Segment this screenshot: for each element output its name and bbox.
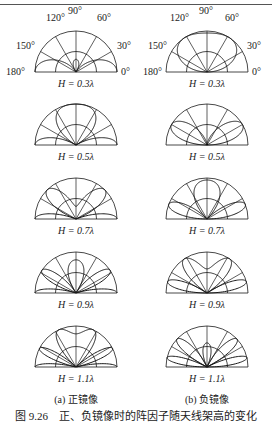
angle-label-60-left: 60° — [97, 12, 111, 23]
height-label-a-2: H = 0.7λ — [16, 225, 136, 236]
angle-label-120-right: 120° — [170, 12, 189, 23]
angle-label-0-right: 0° — [252, 66, 261, 77]
height-label-a-3: H = 0.9λ — [16, 299, 136, 310]
height-label-b-3: H = 0.9λ — [147, 299, 267, 310]
angle-label-180-right: 180° — [143, 66, 162, 77]
polar-plot-a-4 — [35, 326, 117, 367]
height-label-a-4: H = 1.1λ — [16, 373, 136, 384]
height-label-a-1: H = 0.5λ — [16, 151, 136, 162]
polar-plot-a-3 — [35, 252, 117, 293]
polar-plot-a-1 — [35, 104, 117, 145]
polar-plot-b-4 — [166, 326, 248, 367]
height-label-b-2: H = 0.7λ — [147, 225, 267, 236]
height-label-a-0: H = 0.3λ — [16, 78, 136, 89]
polar-plot-a-2 — [35, 178, 117, 219]
subtitle-positive-image: (a) 正镜像 — [16, 391, 136, 406]
height-label-b-0: H = 0.3λ — [147, 78, 267, 89]
angle-label-0-left: 0° — [121, 66, 130, 77]
angle-label-180-left: 180° — [6, 66, 25, 77]
angle-label-120-left: 120° — [46, 12, 65, 23]
polar-plot-b-1 — [166, 104, 248, 145]
angle-label-60-right: 60° — [225, 12, 239, 23]
angle-label-150-right: 150° — [148, 40, 167, 51]
polar-plot-b-0 — [166, 31, 248, 72]
angle-label-90-right: 90° — [199, 5, 213, 16]
height-label-b-1: H = 0.5λ — [147, 151, 267, 162]
angle-label-150-left: 150° — [16, 40, 35, 51]
polar-plot-b-2 — [166, 178, 248, 219]
figure-caption: 图 9.26 正、负镜像时的阵因子随天线架高的变化 — [0, 407, 272, 423]
polar-plot-b-3 — [166, 252, 248, 293]
polar-plot-a-0 — [35, 31, 117, 72]
height-label-b-4: H = 1.1λ — [147, 373, 267, 384]
polar-pattern-grid — [0, 0, 272, 425]
angle-label-30-left: 30° — [117, 40, 131, 51]
subtitle-negative-image: (b) 负镜像 — [147, 391, 267, 406]
angle-label-90-left: 90° — [68, 5, 82, 16]
angle-label-30-right: 30° — [247, 40, 261, 51]
